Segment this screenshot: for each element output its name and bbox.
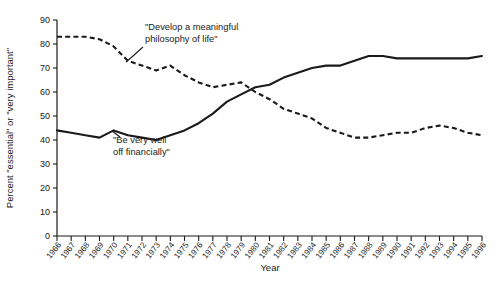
leader-line-philosophy [126, 47, 143, 62]
y-axis-title: Percent "essential" or "very important" [4, 48, 15, 208]
annotation-financial-line-2: off financially" [113, 147, 170, 157]
y-tick-label: 0 [45, 231, 50, 241]
x-axis-ticks: 1966196719681969197019711972197319741975… [45, 236, 489, 261]
x-axis-title: Year [260, 262, 279, 273]
y-tick-label: 70 [40, 63, 50, 73]
series-line-develop-a-meaningful-philosophy-of-life [57, 37, 482, 138]
y-tick-label: 80 [40, 39, 50, 49]
x-tick-label: 1996 [470, 240, 489, 260]
annotation-philosophy-line-2: philosophy of life" [145, 34, 218, 44]
annotation-philosophy-line-1: "Develop a meaningful [145, 22, 238, 32]
y-tick-label: 50 [40, 111, 50, 121]
y-tick-label: 10 [40, 207, 50, 217]
chart-container: 0102030405060708090 19661967196819691970… [0, 0, 501, 285]
annotation-financial: "Be very well off financially" [113, 135, 170, 157]
y-tick-label: 20 [40, 183, 50, 193]
y-axis-ticks: 0102030405060708090 [40, 15, 57, 241]
line-chart-figure: 0102030405060708090 19661967196819691970… [0, 0, 501, 285]
y-tick-label: 60 [40, 87, 50, 97]
series-line-be-very-well-off-financially [57, 56, 482, 140]
y-tick-label: 90 [40, 15, 50, 25]
y-tick-label: 30 [40, 159, 50, 169]
y-tick-label: 40 [40, 135, 50, 145]
annotation-philosophy: "Develop a meaningful philosophy of life… [145, 22, 238, 44]
annotation-financial-line-1: "Be very well [113, 135, 166, 145]
